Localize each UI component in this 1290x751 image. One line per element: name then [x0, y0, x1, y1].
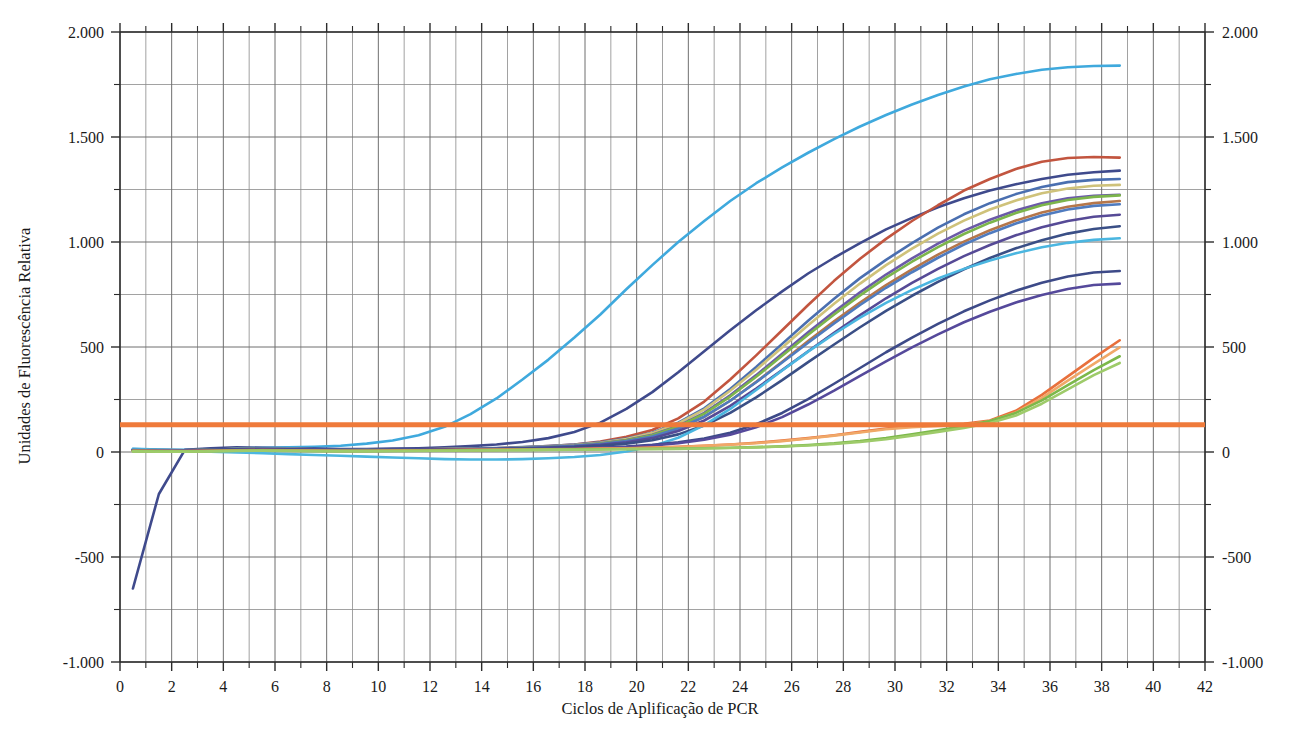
- x-tick-label: 0: [116, 678, 124, 695]
- y-tick-label-right: -1.000: [1222, 654, 1263, 671]
- x-tick-label: 4: [219, 678, 227, 695]
- y-tick-label-right: 0: [1222, 444, 1230, 461]
- qpcr-amplification-chart: -1.000-1.000-500-500005005001.0001.0001.…: [0, 0, 1290, 751]
- x-tick-label: 34: [990, 678, 1006, 695]
- y-tick-label-left: -1.000: [63, 654, 104, 671]
- series-curve: [133, 204, 1120, 450]
- x-tick-label: 32: [939, 678, 955, 695]
- x-tick-label: 2: [168, 678, 176, 695]
- x-tick-label: 24: [732, 678, 748, 695]
- x-tick-label: 28: [835, 678, 851, 695]
- x-tick-label: 20: [629, 678, 645, 695]
- series-curve: [133, 66, 1120, 450]
- x-tick-label: 12: [422, 678, 438, 695]
- x-tick-label: 26: [784, 678, 800, 695]
- x-tick-label: 16: [525, 678, 541, 695]
- chart-canvas: -1.000-1.000-500-500005005001.0001.0001.…: [0, 0, 1290, 751]
- x-tick-label: 8: [323, 678, 331, 695]
- y-tick-label-left: 1.500: [68, 129, 104, 146]
- y-tick-label-left: 1.000: [68, 234, 104, 251]
- series-curve: [133, 340, 1120, 451]
- y-tick-label-right: 1.000: [1222, 234, 1258, 251]
- x-tick-label: 42: [1197, 678, 1213, 695]
- y-tick-label-right: 500: [1222, 339, 1246, 356]
- x-tick-label: 18: [577, 678, 593, 695]
- y-axis-title: Unidades de Fluorescência Relativa: [15, 227, 34, 465]
- x-tick-label: 14: [474, 678, 490, 695]
- series-curve: [133, 157, 1120, 451]
- series-curve: [133, 226, 1120, 450]
- x-tick-label: 36: [1042, 678, 1058, 695]
- series-curve: [133, 195, 1120, 451]
- x-tick-label: 6: [271, 678, 279, 695]
- series-curves: [133, 66, 1120, 589]
- x-tick-label: 40: [1145, 678, 1161, 695]
- x-tick-label: 38: [1094, 678, 1110, 695]
- series-curve: [133, 195, 1120, 450]
- series-curve: [133, 185, 1120, 450]
- y-tick-label-right: -500: [1222, 549, 1251, 566]
- series-curve: [133, 201, 1120, 451]
- x-tick-label: 30: [887, 678, 903, 695]
- y-tick-label-left: -500: [75, 549, 104, 566]
- x-tick-label: 10: [370, 678, 386, 695]
- series-curve: [133, 215, 1120, 451]
- y-tick-label-right: 1.500: [1222, 129, 1258, 146]
- y-tick-label-left: 0: [96, 444, 104, 461]
- y-tick-label-right: 2.000: [1222, 24, 1258, 41]
- y-tick-label-left: 500: [80, 339, 104, 356]
- series-curve: [133, 171, 1120, 589]
- y-tick-label-left: 2.000: [68, 24, 104, 41]
- x-tick-label: 22: [680, 678, 696, 695]
- x-axis-title: Ciclos de Aplificação de PCR: [561, 699, 758, 718]
- axis-tick-labels: -1.000-1.000-500-500005005001.0001.0001.…: [63, 24, 1264, 695]
